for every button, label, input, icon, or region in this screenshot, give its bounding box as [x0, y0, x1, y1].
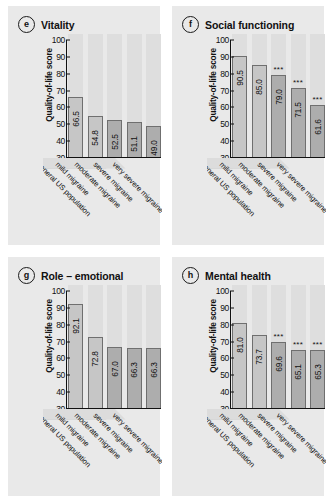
panel-badge: e — [18, 16, 35, 33]
panel-g: gRole – emotionalQuality-of-life score92… — [0, 251, 164, 502]
y-tick-label: 80 — [43, 69, 65, 79]
bar-column: 79.0*** — [271, 34, 286, 158]
y-tick-label: 100 — [207, 286, 229, 296]
bar: 69.6 — [271, 342, 286, 409]
panel-header: fSocial functioning — [182, 16, 294, 33]
y-tick-label: 80 — [207, 320, 229, 330]
bar: 51.1 — [127, 122, 142, 158]
significance-marker: *** — [310, 96, 325, 104]
panel-content: hMental healthQuality-of-life score81.07… — [168, 257, 324, 502]
panel-badge: h — [182, 267, 199, 284]
panel-badge: f — [182, 16, 199, 33]
bar: 67.0 — [107, 347, 122, 409]
y-tick-label: 40 — [207, 136, 229, 146]
y-tick-label: 70 — [207, 337, 229, 347]
plot-area: Quality-of-life score90.585.079.0***71.5… — [178, 40, 328, 250]
y-tick-label: 60 — [207, 353, 229, 363]
panel-e: eVitalityQuality-of-life score66.554.852… — [0, 0, 164, 251]
bar-column: 54.8 — [88, 34, 103, 158]
bar-value-label: 66.5 — [71, 111, 81, 126]
bar-column: 85.0 — [252, 34, 267, 158]
bar-value-label: 67.0 — [110, 361, 120, 376]
bar-value-label: 71.5 — [293, 102, 303, 117]
bar: 81.0 — [232, 323, 247, 409]
bar-value-label: 61.6 — [313, 119, 323, 134]
bar: 92.1 — [68, 304, 83, 409]
y-tick-label: 90 — [207, 52, 229, 62]
x-axis-labels: general US populationmild migrainemodera… — [207, 409, 326, 501]
bar-column: 90.5 — [232, 34, 247, 158]
panel-title: Mental health — [205, 270, 271, 282]
plot-area: Quality-of-life score66.554.852.551.149.… — [14, 40, 164, 250]
bar: 66.3 — [146, 348, 161, 409]
panel-content: gRole – emotionalQuality-of-life score92… — [4, 257, 160, 502]
bar-column: 67.0 — [107, 285, 122, 409]
plot-area: Quality-of-life score81.073.769.6***65.1… — [178, 291, 328, 501]
panel-h: hMental healthQuality-of-life score81.07… — [164, 251, 328, 502]
bar-column: 66.5 — [68, 34, 83, 158]
panel-header: gRole – emotional — [18, 267, 123, 284]
bar-value-label: 52.5 — [110, 134, 120, 149]
bar-column: 52.5 — [107, 34, 122, 158]
x-axis-labels: general US populationmild migrainemodera… — [43, 409, 162, 501]
significance-marker: *** — [310, 341, 325, 349]
y-tick-label: 50 — [207, 119, 229, 129]
y-axis-line — [230, 291, 231, 409]
panel-title: Vitality — [41, 19, 74, 31]
significance-marker: *** — [291, 341, 306, 349]
panel-title: Role – emotional — [41, 270, 123, 282]
panel-header: hMental health — [182, 267, 271, 284]
bar-value-label: 54.8 — [90, 131, 100, 146]
bar-value-label: 72.8 — [90, 351, 100, 366]
y-axis-ticks: 10090807060504030 — [43, 40, 65, 158]
axis-area: 66.554.852.551.149.010090807060504030 — [43, 40, 161, 158]
bar: 52.5 — [107, 120, 122, 158]
bar-column: 49.0 — [146, 34, 161, 158]
bar-value-label: 69.6 — [274, 357, 284, 372]
y-tick-label: 70 — [43, 337, 65, 347]
y-tick-label: 100 — [207, 35, 229, 45]
y-tick-label: 50 — [43, 119, 65, 129]
y-axis-line — [66, 291, 67, 409]
y-tick-label: 60 — [43, 353, 65, 363]
y-tick-label: 80 — [207, 69, 229, 79]
bar: 72.8 — [88, 337, 103, 409]
significance-marker: *** — [291, 79, 306, 87]
bar-value-label: 79.0 — [274, 90, 284, 105]
bar: 66.5 — [68, 97, 83, 159]
y-tick-label: 60 — [207, 102, 229, 112]
bar-column: 92.1 — [68, 285, 83, 409]
bar-value-label: 92.1 — [71, 319, 81, 334]
y-tick-label: 90 — [43, 303, 65, 313]
x-axis-labels: general US populationmild migrainemodera… — [43, 158, 162, 250]
y-tick-label: 90 — [207, 303, 229, 313]
quality-of-life-figure: eVitalityQuality-of-life score66.554.852… — [0, 0, 328, 502]
axis-area: 90.585.079.0***71.5***61.6***10090807060… — [207, 40, 325, 158]
bar-column: 72.8 — [88, 285, 103, 409]
bar: 66.3 — [127, 348, 142, 409]
y-tick-label: 50 — [207, 370, 229, 380]
bar-column: 61.6*** — [310, 34, 325, 158]
panel-badge: g — [18, 267, 35, 284]
bar-value-label: 65.3 — [313, 364, 323, 379]
axis-area: 81.073.769.6***65.1***65.3***10090807060… — [207, 291, 325, 409]
bar-value-label: 85.0 — [254, 80, 264, 95]
bar: 73.7 — [252, 335, 267, 409]
bar-column: 69.6*** — [271, 285, 286, 409]
y-axis-line — [230, 40, 231, 158]
bar: 90.5 — [232, 56, 247, 158]
bar: 54.8 — [88, 116, 103, 158]
significance-marker: *** — [271, 333, 286, 341]
bar-group: 90.585.079.0***71.5***61.6*** — [232, 34, 325, 158]
bar-value-label: 66.3 — [149, 362, 159, 377]
bar-column: 66.3 — [127, 285, 142, 409]
bar-value-label: 90.5 — [235, 70, 245, 85]
bar-value-label: 66.3 — [129, 362, 139, 377]
y-axis-ticks: 10090807060504030 — [43, 291, 65, 409]
bar: 65.3 — [310, 350, 325, 410]
y-tick-label: 100 — [43, 286, 65, 296]
bar-column: 71.5*** — [291, 34, 306, 158]
bar: 49.0 — [146, 126, 161, 158]
y-axis-ticks: 10090807060504030 — [207, 40, 229, 158]
axis-area: 92.172.867.066.366.310090807060504030 — [43, 291, 161, 409]
